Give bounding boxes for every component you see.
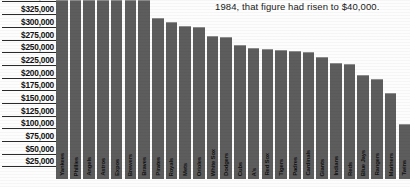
bar-column: Pirates	[152, 0, 164, 179]
bar-column: White Sox	[207, 0, 219, 179]
bar	[83, 0, 95, 179]
bar	[344, 64, 356, 179]
y-axis-tick: $50,000	[0, 143, 56, 155]
plot-area: YankeesPhilliesAngelsAstrosExposBrewersB…	[56, 0, 410, 187]
y-axis-tick: $275,000	[0, 29, 56, 41]
bar	[152, 18, 164, 179]
bar	[248, 48, 260, 179]
bar-column: Tigers	[275, 0, 287, 179]
bar-column: Astros	[97, 0, 109, 179]
y-axis-tick: $250,000	[0, 41, 56, 53]
y-axis-tick-label: $200,000	[21, 68, 56, 78]
bar-column: Braves	[138, 0, 150, 179]
y-axis-tick-label: $325,000	[21, 4, 56, 14]
bar-column: Brewers	[125, 0, 137, 179]
bar	[70, 0, 82, 179]
bar-column: Mets	[179, 0, 191, 179]
y-axis-tick: $150,000	[0, 92, 56, 104]
bar	[179, 26, 191, 179]
y-axis-tick-label: $25,000	[25, 156, 56, 166]
bar-column: Royals	[166, 0, 178, 179]
y-axis-gridline	[2, 166, 56, 167]
y-axis-tick-label: $175,000	[21, 80, 56, 90]
bar-column: Reds	[344, 0, 356, 179]
bar	[385, 93, 397, 179]
y-axis-tick-label: $75,000	[25, 131, 56, 141]
y-axis-tick-label: $250,000	[21, 42, 56, 52]
y-axis-tick-label: $50,000	[25, 144, 56, 154]
y-axis-tick-label: $125,000	[21, 106, 56, 116]
y-axis-tick: $125,000	[0, 105, 56, 117]
bar-series: YankeesPhilliesAngelsAstrosExposBrewersB…	[56, 0, 410, 179]
bar	[125, 0, 137, 179]
y-axis-tick: $350,000	[0, 0, 56, 2]
y-axis-tick-label: $150,000	[21, 93, 56, 103]
bar-column: Padres	[289, 0, 301, 179]
y-axis-tick: $75,000	[0, 130, 56, 142]
y-axis-tick: $200,000	[0, 67, 56, 79]
bar-column: Phillies	[70, 0, 82, 179]
y-axis-tick: $300,000	[0, 16, 56, 28]
scanned-chart-page: 1984, that figure had risen to $40,000. …	[0, 0, 410, 187]
bar-column: Twins	[399, 0, 410, 179]
bar-column: Mariners	[385, 0, 397, 179]
y-axis-tick: $25,000	[0, 155, 56, 167]
y-axis-tick-label: $225,000	[21, 55, 56, 65]
bar	[357, 75, 369, 179]
bar	[97, 0, 109, 179]
bar-column: Indians	[330, 0, 342, 179]
bar-column: A's	[248, 0, 260, 179]
bar-column: Orioles	[193, 0, 205, 179]
bar-column: Dodgers	[220, 0, 232, 179]
bar	[166, 22, 178, 179]
y-axis-tick-label: $275,000	[21, 30, 56, 40]
bar	[220, 37, 232, 179]
bar-column: Expos	[111, 0, 123, 179]
bar	[330, 63, 342, 179]
bar	[111, 0, 123, 179]
y-axis: $350,000$325,000$300,000$275,000$250,000…	[0, 0, 56, 187]
bar-column: Giants	[316, 0, 328, 179]
bar	[399, 124, 410, 179]
bar	[303, 52, 315, 179]
bar	[207, 36, 219, 179]
y-axis-tick-label: $100,000	[21, 118, 56, 128]
bar	[289, 51, 301, 179]
bar-column: Cardinals	[303, 0, 315, 179]
bar	[234, 45, 246, 179]
bar	[138, 0, 150, 179]
y-axis-tick: $175,000	[0, 79, 56, 91]
bar-column: Blue Jays	[357, 0, 369, 179]
bar	[275, 50, 287, 179]
y-axis-tick: $325,000	[0, 3, 56, 15]
y-axis-tick-label: $300,000	[21, 17, 56, 27]
y-axis-tick: $100,000	[0, 117, 56, 129]
bar-column: Angels	[83, 0, 95, 179]
bar-column: Rangers	[371, 0, 383, 179]
y-axis-tick: $225,000	[0, 54, 56, 66]
bar-column: Red Sox	[262, 0, 274, 179]
bar	[193, 27, 205, 179]
bar-column: Yankees	[56, 0, 68, 179]
bar	[262, 49, 274, 179]
bar	[56, 0, 68, 179]
bar	[371, 79, 383, 179]
bar	[316, 57, 328, 179]
bar-column: Cubs	[234, 0, 246, 179]
